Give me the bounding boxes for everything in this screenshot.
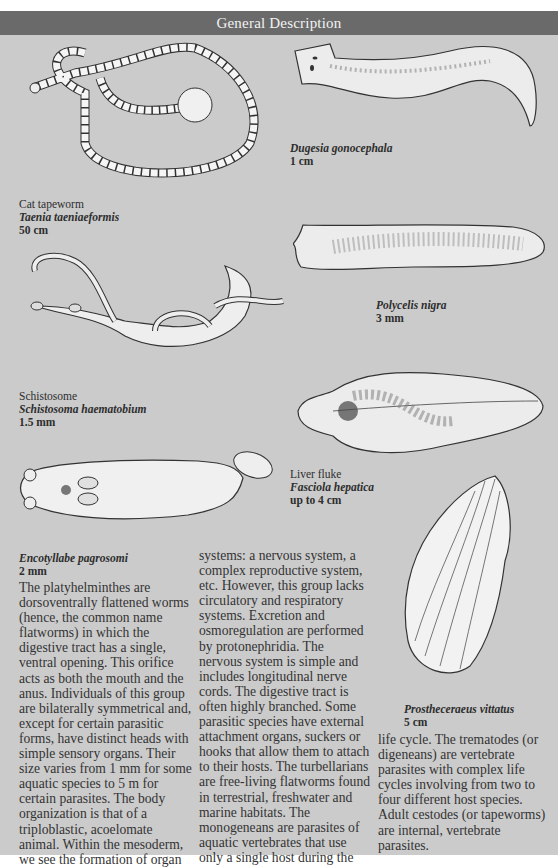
scientific-name: Encotyllabe pagrosomi [19, 552, 128, 565]
scientific-name: Polycelis nigra [376, 299, 447, 312]
schistosome-illustration [25, 246, 285, 361]
text-line: organization is that of a [19, 806, 192, 821]
text-line: parasitic species have external [199, 714, 370, 729]
text-line: cords. The digestive tract is [199, 684, 370, 699]
text-line: animal. Within the mesoderm, [19, 837, 192, 852]
text-line: aquatic species to 5 m for [19, 776, 192, 791]
text-line: triploblastic, acoelomate [19, 822, 192, 837]
caption-liver-fluke: Liver fluke Fasciola hepatica up to 4 cm [290, 468, 374, 507]
text-line: includes longitudinal nerve [199, 669, 370, 684]
scientific-name: Fasciola hepatica [290, 481, 374, 494]
scientific-name: Schistosoma haematobium [19, 403, 146, 416]
text-line: digeneans) are vertebrate [378, 747, 545, 762]
text-line: Adult cestodes (or tapeworms) [378, 807, 545, 822]
size-label: 50 cm [19, 224, 119, 237]
text-line: forms, have distinct heads with [19, 731, 192, 746]
text-line: to their hosts. The turbellarians [199, 759, 370, 774]
caption-prostheceraeus: Prostheceraeus vittatus 5 cm [404, 703, 514, 729]
text-line: flatworms) in which the [19, 625, 192, 640]
text-line: simple sensory organs. Their [19, 746, 192, 761]
caption-dugesia: Dugesia gonocephala 1 cm [290, 142, 393, 168]
size-label: 1 cm [290, 155, 393, 168]
dugesia-illustration [290, 36, 540, 131]
text-line: ventral opening. This orifice [19, 655, 192, 670]
text-line: The platyhelminthes are [19, 580, 192, 595]
text-line: nervous system is simple and [199, 654, 370, 669]
common-name: Cat tapeworm [19, 198, 119, 211]
text-line: aquatic vertebrates that use [199, 835, 370, 850]
text-line: parasites with complex life [378, 762, 545, 777]
body-text-column-3: life cycle. The trematodes (ordigeneans)… [378, 732, 545, 853]
size-label: 1.5 mm [19, 416, 146, 429]
text-line: four different host species. [378, 792, 545, 807]
size-label: 3 mm [376, 312, 447, 325]
scientific-name: Dugesia gonocephala [290, 142, 393, 155]
text-line: anus. Individuals of this group [19, 686, 192, 701]
scientific-name: Taenia taeniaeformis [19, 211, 119, 224]
text-line: we see the formation of organ [19, 852, 192, 867]
scientific-name: Prostheceraeus vittatus [404, 703, 514, 716]
text-line: are internal, vertebrate [378, 823, 545, 838]
caption-cat-tapeworm: Cat tapeworm Taenia taeniaeformis 50 cm [19, 198, 119, 237]
page: General Description Cat tapeworm Taenia … [0, 11, 558, 855]
text-line: life cycle. The trematodes (or [378, 732, 545, 747]
text-line: cycles involving from two to [378, 777, 545, 792]
text-line: etc. However, this group lacks [199, 578, 370, 593]
text-line: are bilaterally symmetrical and, [19, 701, 192, 716]
caption-schistosome: Schistosome Schistosoma haematobium 1.5 … [19, 390, 146, 429]
common-name: Schistosome [19, 390, 146, 403]
text-line: in terrestrial, freshwater and [199, 790, 370, 805]
text-line: only a single host during the [199, 850, 370, 865]
text-line: (hence, the common name [19, 610, 192, 625]
text-line: by protonephridia. The [199, 639, 370, 654]
common-name: Liver fluke [290, 468, 374, 481]
text-line: systems. Excretion and [199, 608, 370, 623]
polycelis-illustration [293, 222, 548, 272]
text-line: attachment organs, suckers or [199, 729, 370, 744]
text-line: parasites. [378, 838, 545, 853]
text-line: acts as both the mouth and the [19, 671, 192, 686]
liver-fluke-illustration [293, 356, 548, 461]
text-line: circulatory and respiratory [199, 593, 370, 608]
text-line: marine habitats. The [199, 805, 370, 820]
text-line: monogeneans are parasites of [199, 820, 370, 835]
encotyllabe-illustration [18, 443, 273, 528]
text-line: except for certain parasitic [19, 716, 192, 731]
size-label: 5 cm [404, 716, 514, 729]
text-line: certain parasites. The body [19, 791, 192, 806]
body-text-column-2: systems: a nervous system, acomplex repr… [199, 548, 370, 865]
text-line: dorsoventrally flattened worms [19, 595, 192, 610]
text-line: hooks that allow them to attach [199, 744, 370, 759]
cat-tapeworm-illustration [15, 33, 260, 183]
prostheceraeus-illustration [400, 471, 520, 681]
size-label: 2 mm [19, 565, 128, 578]
section-header: General Description [0, 11, 558, 35]
caption-polycelis: Polycelis nigra 3 mm [376, 299, 447, 325]
size-label: up to 4 cm [290, 494, 374, 507]
text-line: size varies from 1 mm for some [19, 761, 192, 776]
text-line: systems: a nervous system, a [199, 548, 370, 563]
text-line: are free-living flatworms found [199, 774, 370, 789]
text-line: complex reproductive system, [199, 563, 370, 578]
text-line: digestive tract has a single, [19, 640, 192, 655]
body-text-column-1: The platyhelminthes aredorsoventrally fl… [19, 580, 192, 867]
text-line: osmoregulation are performed [199, 623, 370, 638]
caption-encotyllabe: Encotyllabe pagrosomi 2 mm [19, 552, 128, 578]
text-line: often highly branched. Some [199, 699, 370, 714]
